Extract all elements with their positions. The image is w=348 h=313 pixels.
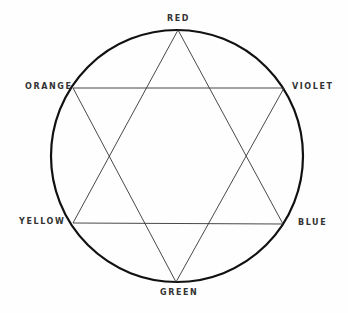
label-yellow: YELLOW — [19, 217, 65, 226]
label-red: RED — [167, 14, 190, 23]
label-green: GREEN — [160, 288, 198, 297]
label-orange: ORANGE — [25, 82, 72, 91]
triangle-primary — [73, 30, 283, 224]
label-blue: BLUE — [298, 218, 327, 227]
triangle-secondary — [73, 88, 284, 282]
color-circle — [51, 30, 303, 282]
label-violet: VIOLET — [292, 82, 334, 91]
color-wheel-diagram — [0, 0, 348, 313]
